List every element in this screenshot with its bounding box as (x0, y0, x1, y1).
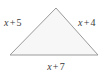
bottom-variable: x (47, 61, 52, 72)
bottom-operator: + (53, 61, 59, 72)
bottom-constant: 7 (60, 61, 65, 72)
side-label-right: x+4 (78, 17, 96, 28)
left-operator: + (10, 17, 16, 28)
triangle-polygon (10, 8, 98, 55)
right-variable: x (78, 17, 83, 28)
left-variable: x (4, 17, 9, 28)
right-operator: + (84, 17, 90, 28)
side-label-bottom: x+7 (0, 61, 112, 72)
triangle-figure: x+5 x+4 x+7 (0, 0, 112, 78)
left-constant: 5 (16, 17, 21, 28)
right-constant: 4 (90, 17, 95, 28)
side-label-left: x+5 (4, 17, 22, 28)
